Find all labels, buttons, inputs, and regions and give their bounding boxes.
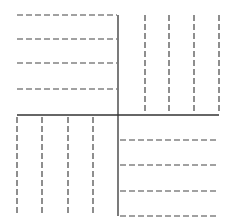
solid-divider-lines [17,15,219,216]
quadrant-dashed-line-diagram [0,0,234,224]
quadrant-bottom-left [17,117,93,216]
quadrant-top-right [145,15,219,113]
quadrant-top-left [17,15,117,89]
quadrant-bottom-right [120,140,219,216]
